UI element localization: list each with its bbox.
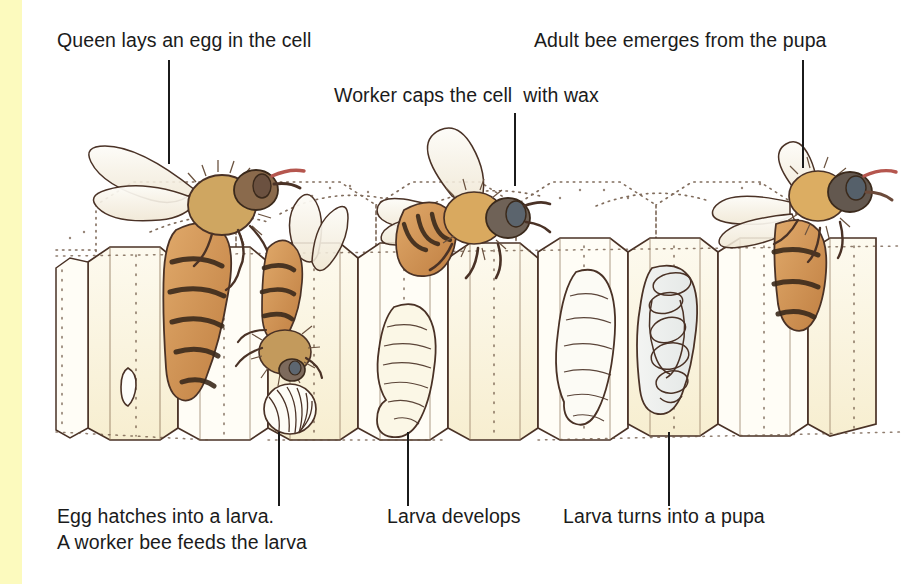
label-queen-lays-egg: Queen lays an egg in the cell	[57, 28, 311, 53]
coiled-larva	[264, 384, 316, 434]
leader-adult-emerges	[802, 60, 804, 168]
label-egg-hatches-line1: Egg hatches into a larva.	[57, 504, 274, 529]
label-larva-turns-pupa: Larva turns into a pupa	[563, 504, 765, 529]
leader-queen-lays-egg	[168, 60, 170, 164]
label-larva-develops: Larva develops	[387, 504, 521, 529]
label-egg-hatches-line2: A worker bee feeds the larva	[57, 530, 307, 555]
label-adult-bee-emerges: Adult bee emerges from the pupa	[534, 28, 827, 53]
figure-canvas: Queen lays an egg in the cell Worker cap…	[0, 0, 903, 584]
leader-worker-caps-cell	[514, 113, 516, 186]
leader-egg-hatches	[278, 432, 280, 506]
leader-larva-turns-pupa	[668, 432, 670, 506]
label-worker-caps-cell: Worker caps the cell with wax	[334, 83, 599, 108]
leader-larva-develops	[407, 432, 409, 506]
